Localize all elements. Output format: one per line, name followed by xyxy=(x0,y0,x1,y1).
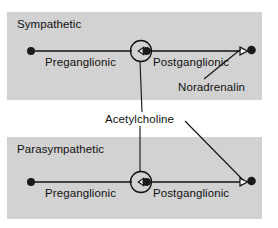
label-postganglionic-sympathetic: Postganglionic xyxy=(153,56,229,68)
label-preganglionic-parasympathetic: Preganglionic xyxy=(45,187,116,199)
panel-title-sympathetic: Sympathetic xyxy=(17,18,81,30)
diagram-root: Sympathetic Parasympathetic Preganglioni… xyxy=(0,0,278,228)
label-postganglionic-parasympathetic: Postganglionic xyxy=(153,187,229,199)
label-noradrenalin: Noradrenalin xyxy=(178,81,245,93)
label-acetylcholine: Acetylcholine xyxy=(105,113,174,125)
panel-title-parasympathetic: Parasympathetic xyxy=(17,143,104,155)
label-preganglionic-sympathetic: Preganglionic xyxy=(45,56,116,68)
